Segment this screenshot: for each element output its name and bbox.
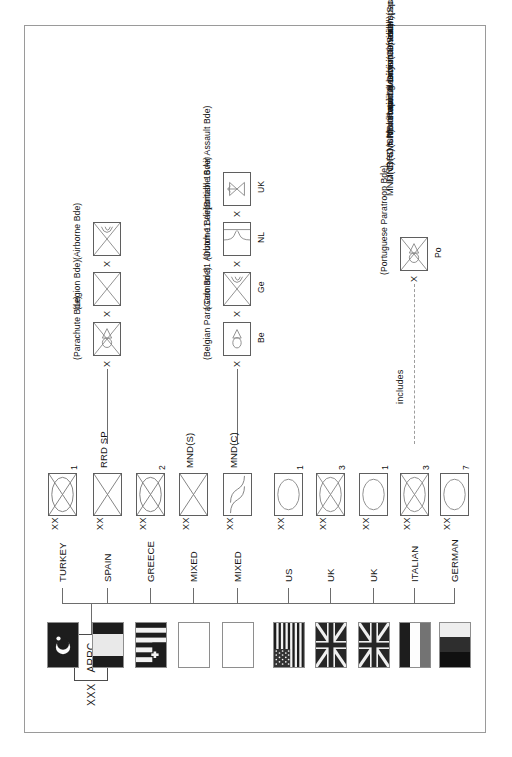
division-nation-uk3: UK — [325, 568, 336, 582]
division-number-uk3: 3 — [337, 465, 347, 470]
flag-greece — [135, 622, 167, 668]
brigade-code-be: Be — [256, 332, 266, 343]
includes-connector — [414, 284, 415, 444]
echelon-uk3: XX — [318, 517, 328, 530]
echelon-italian: XX — [402, 517, 412, 530]
brigade-echelon-rrd-2: X — [102, 260, 112, 267]
brigade-code-uk: UK — [256, 181, 266, 193]
division-sublabel-mndc: MND(C) — [228, 432, 239, 468]
echelon-greece: XX — [138, 517, 148, 530]
flag-turkey — [47, 622, 79, 668]
brigade-name-british-air-assault: (British 16 Air Assault Bde) — [202, 105, 212, 210]
echelon-us: XX — [276, 517, 286, 530]
flag-blank-mndc — [222, 622, 254, 668]
legend-note: NB: showing only main elite/special forc… — [385, 0, 395, 138]
branch-italian — [414, 588, 415, 604]
brigade-echelon-rrd-0: X — [102, 360, 112, 367]
division-symbol-spain[interactable] — [93, 473, 122, 516]
flag-italy — [399, 622, 431, 668]
brigade-symbol-belgian-para-cdo[interactable] — [223, 322, 251, 356]
division-nation-greece: GREECE — [145, 541, 156, 582]
root-echelon: XXX — [85, 683, 97, 706]
branch-us — [288, 588, 289, 604]
brigade-symbol-british-air-assault[interactable] — [223, 172, 251, 206]
division-number-us: 1 — [295, 465, 305, 470]
flag-uk-3div — [315, 622, 347, 668]
division-nation-italian: ITALIAN — [409, 546, 420, 582]
brigade-echelon-mndc-2: X — [232, 260, 242, 267]
division-nation-turkey: TURKEY — [57, 542, 68, 582]
rotated-canvas: XXX ARRC — [25, 26, 487, 734]
division-symbol-mndc[interactable] — [223, 473, 252, 516]
brigade-echelon-rrd-1: X — [102, 310, 112, 317]
page-frame: XXX ARRC — [24, 25, 486, 733]
brigade-code-po: Po — [433, 247, 443, 258]
branch-greece — [150, 588, 151, 604]
division-number-italian: 3 — [421, 465, 431, 470]
echelon-mixed-c: XX — [225, 517, 235, 530]
division-nation-german: GERMAN — [449, 539, 460, 582]
brigade-symbol-portuguese-paratroop[interactable] — [400, 237, 428, 271]
echelon-turkey: XX — [50, 517, 60, 530]
flag-spain — [92, 622, 124, 668]
flag-blank-mnds — [178, 622, 210, 668]
division-symbol-us[interactable] — [274, 473, 303, 516]
branch-turkey — [62, 588, 63, 604]
division-number-greece: 2 — [157, 465, 167, 470]
flag-us — [273, 622, 305, 668]
includes-label: includes — [395, 369, 405, 404]
brigade-symbol-airborne-sp[interactable] — [93, 222, 121, 256]
division-nation-spain: SPAIN — [102, 553, 113, 582]
brigade-code-nl: NL — [256, 232, 266, 243]
division-sublabel-rrdsp: RRD SP — [98, 431, 109, 468]
division-symbol-uk3[interactable] — [316, 473, 345, 516]
division-symbol-turkey[interactable] — [48, 473, 77, 516]
brigade-symbol-parachute[interactable] — [93, 322, 121, 356]
brigade-symbol-german-airborne[interactable] — [223, 272, 251, 306]
brigade-symbol-dutch-airportable[interactable] — [223, 222, 251, 256]
flag-germany — [439, 622, 471, 668]
brigade-name-legion: (Legion Bde) — [72, 260, 82, 310]
echelon-mixed-s: XX — [181, 517, 191, 530]
flag-uk-1div — [358, 622, 390, 668]
branch-uk3 — [330, 588, 331, 604]
echelon-german: XX — [442, 517, 452, 530]
division-symbol-german[interactable] — [440, 473, 469, 516]
division-sublabel-mnds: MND(S) — [184, 433, 195, 468]
division-nation-us: US — [283, 568, 294, 582]
division-nation-mixed-c: MIXED — [232, 551, 243, 582]
branch-spain — [107, 588, 108, 604]
division-number-turkey: 1 — [69, 465, 79, 470]
division-number-german: 7 — [461, 465, 471, 470]
brigade-echelon-mndc-0: X — [232, 360, 242, 367]
branch-uk1 — [373, 588, 374, 604]
diagram-page: XXX ARRC — [0, 0, 512, 757]
brigade-symbol-legion[interactable] — [93, 272, 121, 306]
branch-mixed-c — [237, 588, 238, 604]
echelon-uk1: XX — [361, 517, 371, 530]
division-number-uk1: 1 — [380, 465, 390, 470]
brigade-echelon-mndc-1: X — [232, 310, 242, 317]
brigade-name-airborne-sp: (Airborne Bde) — [72, 203, 82, 260]
division-symbol-italian[interactable] — [400, 473, 429, 516]
brigade-echelon-mndc-3: X — [232, 210, 242, 217]
branch-german — [454, 588, 455, 604]
division-symbol-uk1[interactable] — [359, 473, 388, 516]
division-nation-mixed-s: MIXED — [188, 551, 199, 582]
tree-spine — [62, 603, 454, 604]
brigade-echelon-po: X — [409, 275, 419, 282]
branch-mixed-s — [193, 588, 194, 604]
division-nation-uk1: UK — [368, 568, 379, 582]
division-symbol-greece[interactable] — [136, 473, 165, 516]
division-symbol-mnds[interactable] — [179, 473, 208, 516]
echelon-spain: XX — [95, 517, 105, 530]
brigade-code-ge: Ge — [256, 281, 266, 293]
